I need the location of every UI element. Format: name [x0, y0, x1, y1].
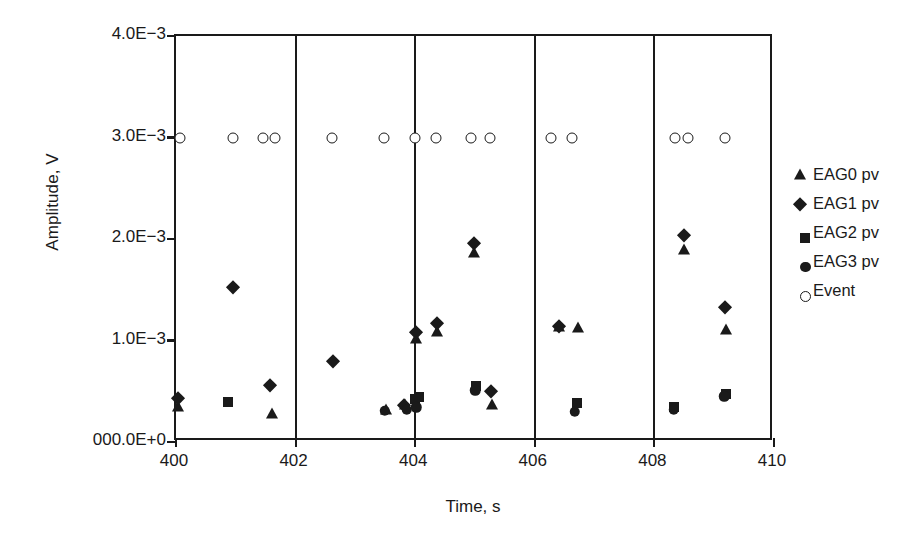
legend-item-eag0-pv[interactable]: EAG0 pv	[790, 160, 920, 189]
x-axis-tick	[653, 438, 655, 447]
x-tick-label: 406	[493, 451, 573, 471]
data-point-triangle	[266, 407, 278, 418]
diamond-icon	[790, 194, 810, 214]
x-tick-label: 408	[612, 451, 692, 471]
y-tick-label: 2.0E−3	[46, 227, 166, 247]
x-axis-tick	[295, 438, 297, 447]
x-axis-tick	[534, 438, 536, 447]
data-point-open-circle	[175, 132, 186, 143]
data-point-triangle	[572, 322, 584, 333]
plot-area	[174, 34, 772, 440]
legend-item-eag1-pv[interactable]: EAG1 pv	[790, 189, 920, 218]
gridline-vertical	[414, 36, 416, 438]
x-axis-label: Time, s	[174, 497, 772, 517]
data-point-square	[223, 397, 233, 407]
data-point-open-circle	[719, 132, 730, 143]
data-point-circle	[470, 385, 481, 396]
data-point-diamond	[678, 228, 691, 241]
legend-item-eag3-pv[interactable]: EAG3 pv	[790, 247, 920, 276]
data-point-diamond	[226, 280, 239, 293]
data-point-open-circle	[545, 132, 556, 143]
x-tick-label: 404	[373, 451, 453, 471]
data-point-circle	[411, 402, 422, 413]
data-point-open-circle	[430, 132, 441, 143]
data-point-diamond	[326, 354, 339, 367]
data-point-open-circle	[682, 132, 693, 143]
data-point-circle	[719, 391, 730, 402]
circle-icon	[790, 252, 810, 272]
gridline-vertical	[295, 36, 297, 438]
square-icon	[790, 223, 810, 243]
legend-item-eag2-pv[interactable]: EAG2 pv	[790, 218, 920, 247]
data-point-open-circle	[257, 132, 268, 143]
x-tick-label: 410	[732, 451, 812, 471]
gridline-vertical	[534, 36, 536, 438]
y-tick-label: 000.0E+0	[46, 430, 166, 450]
data-point-triangle	[678, 244, 690, 255]
data-point-open-circle	[669, 132, 680, 143]
x-axis-tick	[414, 438, 416, 447]
data-point-diamond	[718, 300, 731, 313]
chart-legend: EAG0 pvEAG1 pvEAG2 pvEAG3 pvEvent	[790, 160, 920, 305]
x-tick-label: 400	[134, 451, 214, 471]
data-point-triangle	[486, 399, 498, 410]
chart-figure: Amplitude, V 000.0E+01.0E−32.0E−33.0E−34…	[0, 0, 922, 543]
data-point-diamond	[484, 385, 497, 398]
gridline-vertical	[653, 36, 655, 438]
data-point-circle	[379, 405, 390, 416]
legend-label: EAG0 pv	[813, 165, 879, 184]
data-point-open-circle	[410, 132, 421, 143]
y-axis-tick	[167, 339, 176, 341]
x-axis-tick	[175, 438, 177, 447]
data-point-circle	[668, 404, 679, 415]
data-point-circle	[570, 406, 581, 417]
legend-label: EAG3 pv	[813, 252, 879, 271]
x-tick-label: 402	[254, 451, 334, 471]
data-point-square	[414, 392, 424, 402]
data-point-diamond	[264, 378, 277, 391]
y-tick-label: 3.0E−3	[46, 126, 166, 146]
data-point-open-circle	[567, 132, 578, 143]
data-point-triangle	[720, 324, 732, 335]
data-point-open-circle	[466, 132, 477, 143]
x-axis-tick	[773, 438, 775, 447]
legend-item-event[interactable]: Event	[790, 276, 920, 305]
legend-label: EAG2 pv	[813, 223, 879, 242]
y-axis-tick	[167, 35, 176, 37]
y-axis-tick	[167, 238, 176, 240]
data-point-open-circle	[227, 132, 238, 143]
data-point-open-circle	[378, 132, 389, 143]
triangle-icon	[790, 165, 810, 185]
open-circle-icon	[790, 281, 810, 301]
data-point-open-circle	[484, 132, 495, 143]
y-tick-label: 1.0E−3	[46, 329, 166, 349]
legend-label: EAG1 pv	[813, 194, 879, 213]
data-point-open-circle	[270, 132, 281, 143]
y-tick-label: 4.0E−3	[46, 24, 166, 44]
legend-label: Event	[813, 281, 855, 300]
data-point-open-circle	[327, 132, 338, 143]
